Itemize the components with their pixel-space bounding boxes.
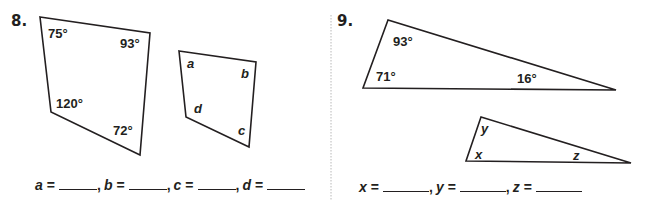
angle-var-c: c: [238, 124, 245, 137]
answer-blank-a[interactable]: [59, 188, 97, 190]
answer-var-z: z: [513, 180, 520, 194]
answer-var-c: c: [174, 178, 182, 192]
angle-label-top: 93°: [393, 35, 413, 48]
angle-var-b: b: [241, 67, 249, 80]
answer-blank-x[interactable]: [383, 190, 429, 192]
answer-blank-b[interactable]: [129, 188, 167, 190]
problem-number: 8.: [11, 14, 27, 29]
angle-var-y: y: [481, 122, 488, 135]
answer-var-y: y: [436, 180, 444, 194]
answer-var-a: a: [35, 178, 43, 192]
answer-blank-d[interactable]: [267, 188, 305, 190]
triangle-known: [363, 20, 616, 90]
angle-var-d: d: [194, 102, 202, 115]
answer-blank-c[interactable]: [198, 188, 236, 190]
angle-label-top-right: 93°: [120, 37, 140, 50]
angle-label-bottom-left: 71°: [376, 70, 396, 83]
answer-var-b: b: [104, 178, 113, 192]
figures-canvas: [0, 0, 645, 204]
answer-var-d: d: [242, 178, 251, 192]
angle-label-bottom-right: 72°: [113, 124, 133, 137]
angle-label-bottom-left: 120°: [56, 97, 83, 110]
answer-line-9: x = , y = , z =: [359, 180, 582, 194]
angle-label-top-left: 75°: [48, 27, 68, 40]
problem-number: 9.: [337, 14, 353, 29]
angle-var-a: a: [187, 57, 194, 70]
angle-var-x: x: [475, 148, 482, 161]
answer-var-x: x: [359, 180, 367, 194]
triangle-unknown: [466, 117, 631, 163]
answer-blank-z[interactable]: [536, 190, 582, 192]
angle-var-z: z: [573, 149, 580, 162]
answer-blank-y[interactable]: [460, 190, 506, 192]
angle-label-bottom-right: 16°: [517, 72, 537, 85]
answer-line-8: a = , b = , c = , d =: [35, 178, 305, 192]
